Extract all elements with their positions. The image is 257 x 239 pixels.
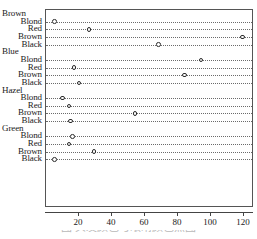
- data-point: [52, 157, 57, 162]
- data-point: [182, 73, 187, 78]
- grid-line: [46, 75, 252, 76]
- grid-line: [46, 159, 252, 160]
- data-point: [52, 19, 57, 24]
- grid-line: [46, 106, 252, 107]
- grid-line: [46, 37, 252, 38]
- x-axis-tick-label: 20: [74, 217, 83, 227]
- data-point: [240, 35, 245, 40]
- data-point: [67, 142, 72, 147]
- grid-line: [46, 22, 252, 23]
- grid-line: [46, 144, 252, 145]
- figure-caption: 图 头发颜色与眼睛颜色点图: [0, 230, 257, 239]
- x-axis-line: [45, 212, 253, 213]
- grid-line: [46, 98, 252, 99]
- x-axis-tick: [111, 212, 112, 216]
- grid-line: [46, 136, 252, 137]
- grid-line: [46, 121, 252, 122]
- data-point: [77, 81, 82, 86]
- data-point: [68, 119, 73, 124]
- data-point: [199, 58, 204, 63]
- data-point: [60, 96, 65, 101]
- plot-area: [45, 9, 253, 207]
- figure-caption-text: 图 头发颜色与眼睛颜色点图: [61, 230, 196, 233]
- grid-line: [46, 113, 252, 114]
- x-axis-tick: [177, 212, 178, 216]
- dot-plot-figure: BrownBlondRedBrownBlackBlueBlondRedBrown…: [0, 0, 257, 239]
- data-point: [92, 149, 97, 154]
- data-point: [87, 27, 92, 32]
- x-axis-tick-label: 100: [203, 217, 217, 227]
- grid-line: [46, 152, 252, 153]
- x-axis-tick: [243, 212, 244, 216]
- data-point: [70, 134, 75, 139]
- x-axis-tick: [78, 212, 79, 216]
- y-axis-label-column: BrownBlondRedBrownBlackBlueBlondRedBrown…: [0, 9, 42, 207]
- grid-line: [46, 29, 252, 30]
- x-axis-tick-label: 40: [107, 217, 116, 227]
- grid-line: [46, 45, 252, 46]
- x-axis-tick-label: 120: [236, 217, 250, 227]
- data-point: [133, 111, 138, 116]
- x-axis-tick: [144, 212, 145, 216]
- x-axis-tick: [210, 212, 211, 216]
- grid-line: [46, 60, 252, 61]
- data-point: [72, 65, 77, 70]
- data-point: [67, 104, 72, 109]
- grid-line: [46, 68, 252, 69]
- x-axis-tick-label: 60: [140, 217, 149, 227]
- row-label-green-black: Black: [0, 154, 42, 163]
- x-axis-tick-label: 80: [173, 217, 182, 227]
- data-point: [156, 42, 161, 47]
